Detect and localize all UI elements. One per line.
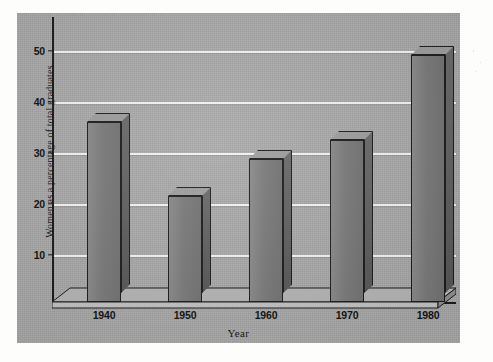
bar-1960: [249, 159, 283, 302]
bar-1970: [330, 140, 364, 302]
y-axis-title: Women as a percentage of total graduates: [44, 27, 55, 277]
bar-1950-front: [168, 196, 202, 302]
y-tick-label-20: 20: [19, 198, 45, 210]
bar-1960-side: [283, 150, 292, 293]
bar-1950: [168, 196, 202, 302]
bar-1940-side: [121, 113, 130, 293]
x-tick-label-1980: 1980: [398, 309, 458, 321]
bar-1970-front: [330, 140, 364, 302]
x-axis-title: Year: [17, 327, 460, 339]
y-tick-label-10: 10: [19, 249, 45, 261]
plot-panel: 50 40 30 20 10 Women as a percentage of …: [17, 13, 460, 343]
bar-1970-side: [364, 131, 373, 293]
x-tick-label-1950: 1950: [155, 309, 215, 321]
x-tick-label-1970: 1970: [317, 309, 377, 321]
y-tick-label-40: 40: [19, 96, 45, 108]
bar-1980-front: [411, 55, 445, 302]
x-tick-label-1960: 1960: [236, 309, 296, 321]
x-tick-label-1940: 1940: [74, 309, 134, 321]
gridline-40: [53, 102, 456, 104]
bar-1980: [411, 55, 445, 302]
chart-page: 50 40 30 20 10 Women as a percentage of …: [0, 0, 493, 362]
bar-1950-side: [202, 187, 211, 293]
y-tick-label-30: 30: [19, 147, 45, 159]
bar-1940: [87, 122, 121, 302]
bar-1940-front: [87, 122, 121, 302]
scan-speckle-artifact: [467, 44, 489, 78]
y-tick-label-50: 50: [19, 45, 45, 57]
bar-1960-front: [249, 159, 283, 302]
bar-1980-side: [445, 46, 454, 293]
gridline-50: [53, 51, 456, 53]
